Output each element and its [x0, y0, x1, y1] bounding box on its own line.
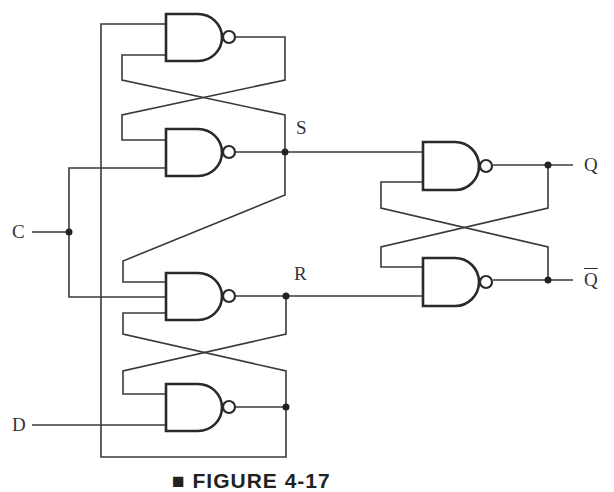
nand-gate-g2 — [166, 129, 235, 176]
junction-r — [283, 293, 290, 300]
junction-qbar — [545, 277, 552, 284]
nand-gate-g4 — [166, 384, 235, 431]
wire-c-to-g3 — [69, 232, 166, 297]
label-d: D — [12, 415, 26, 434]
figure-caption: ■ FIGURE 4-17 — [172, 469, 331, 492]
label-s: S — [296, 118, 307, 137]
nand-gate-g6 — [423, 258, 492, 306]
junction-s — [282, 149, 289, 156]
wires — [32, 24, 573, 457]
label-c: C — [12, 222, 25, 241]
nand-gate-g5 — [423, 142, 492, 190]
wire-c-to-g2 — [69, 168, 166, 232]
nand-gate-g3 — [166, 273, 235, 320]
junction-g4 — [283, 404, 290, 411]
junction-q — [545, 162, 552, 169]
junction-c — [66, 229, 73, 236]
label-r: R — [294, 264, 307, 283]
label-q: Q — [584, 155, 598, 174]
label-q-bar: Q — [584, 270, 598, 289]
nand-gate-g1 — [166, 14, 235, 61]
